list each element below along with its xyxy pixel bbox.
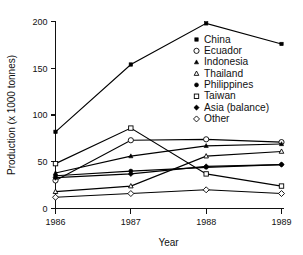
- legend-marker: [194, 94, 198, 98]
- data-point-marker: [53, 189, 58, 193]
- series-line: [56, 144, 282, 173]
- legend-marker: [194, 60, 198, 64]
- chart-legend: ChinaEcuadorIndonesiaThailandPhilippines…: [194, 34, 270, 124]
- legend-item-other[interactable]: Other: [194, 113, 231, 124]
- legend-item-ecuador[interactable]: Ecuador: [194, 45, 243, 56]
- legend-label: Thailand: [204, 68, 243, 79]
- series-line: [56, 139, 282, 180]
- series-line: [56, 190, 282, 197]
- data-point-marker: [279, 162, 284, 167]
- legend-marker: [194, 105, 199, 110]
- legend-item-philippines[interactable]: Philippines: [195, 79, 254, 90]
- data-point-marker: [279, 184, 283, 188]
- legend-label: China: [204, 34, 231, 45]
- data-point-marker: [204, 154, 209, 158]
- data-point-marker: [128, 191, 134, 197]
- line-chart: 050100150200 Production (x 1000 tonnes) …: [0, 0, 303, 255]
- data-point-marker: [54, 130, 57, 133]
- data-point-marker: [53, 194, 59, 200]
- legend-label: Indonesia: [204, 56, 249, 67]
- data-point-marker: [53, 161, 57, 165]
- legend-item-taiwan[interactable]: Taiwan: [194, 90, 235, 101]
- legend-label: Ecuador: [204, 45, 243, 56]
- legend-label: Taiwan: [204, 90, 236, 101]
- series-line: [56, 151, 282, 191]
- data-point-marker: [129, 126, 133, 130]
- y-tick-label: 200: [32, 17, 47, 27]
- data-point-marker: [203, 187, 209, 193]
- y-tick-label: 0: [42, 204, 47, 214]
- legend-marker: [194, 71, 199, 75]
- series-taiwan: [53, 126, 283, 188]
- data-point-marker: [279, 191, 285, 197]
- chart-canvas: 050100150200 Production (x 1000 tonnes) …: [0, 0, 303, 255]
- y-tick-label: 150: [32, 64, 47, 74]
- series-line: [56, 23, 282, 131]
- data-point-marker: [279, 149, 284, 153]
- x-tick-label: 1989: [271, 217, 291, 227]
- x-tick-group: 1986198719881989: [45, 209, 291, 227]
- series-thailand: [53, 149, 284, 194]
- series-china: [54, 22, 283, 134]
- x-tick-label: 1987: [121, 217, 141, 227]
- legend-item-thailand[interactable]: Thailand: [194, 68, 243, 79]
- legend-marker: [194, 48, 199, 53]
- y-axis-title: Production (x 1000 tonnes): [6, 55, 17, 175]
- legend-marker: [195, 83, 199, 87]
- series-line: [56, 128, 282, 186]
- legend-item-indonesia[interactable]: Indonesia: [194, 56, 248, 67]
- legend-marker: [194, 116, 200, 122]
- x-tick-label: 1986: [45, 217, 65, 227]
- data-point-marker: [129, 184, 134, 188]
- data-point-marker: [280, 42, 283, 45]
- y-tick-group: 050100150200: [32, 17, 55, 214]
- legend-item-asia-balance[interactable]: Asia (balance): [194, 102, 269, 113]
- x-axis: 1986198719881989 Year: [45, 209, 291, 248]
- x-axis-title: Year: [158, 237, 179, 248]
- data-point-marker: [204, 22, 207, 25]
- data-point-marker: [204, 137, 209, 142]
- y-tick-label: 50: [37, 157, 47, 167]
- legend-label: Philippines: [204, 79, 253, 90]
- legend-marker: [195, 38, 198, 41]
- legend-label: Asia (balance): [204, 102, 269, 113]
- y-axis: 050100150200 Production (x 1000 tonnes): [6, 17, 56, 214]
- legend-item-china[interactable]: China: [195, 34, 231, 45]
- data-point-marker: [204, 172, 208, 176]
- data-point-marker: [128, 138, 133, 143]
- legend-label: Other: [204, 113, 230, 124]
- data-point-marker: [129, 63, 132, 66]
- y-tick-label: 100: [32, 110, 47, 120]
- x-tick-label: 1988: [196, 217, 216, 227]
